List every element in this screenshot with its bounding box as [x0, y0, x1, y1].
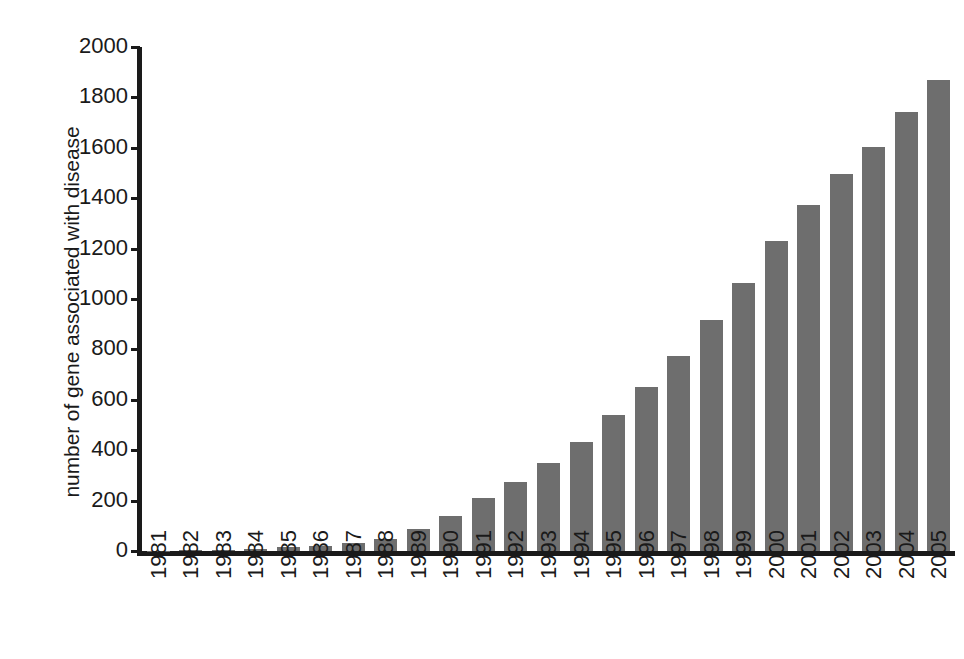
bar-chart: number of gene associated with disease 0… — [0, 0, 964, 659]
x-tick-label: 1993 — [537, 558, 560, 581]
bar — [895, 112, 918, 551]
y-tick-label: 600 — [91, 386, 128, 412]
x-tick-label: 1995 — [602, 558, 625, 581]
x-tick-label: 1998 — [700, 558, 723, 581]
x-tick-label: 1991 — [472, 558, 495, 581]
x-tick-label: 1994 — [570, 558, 593, 581]
y-tick-label: 400 — [91, 436, 128, 462]
y-tick-label: 1000 — [79, 285, 128, 311]
x-tick-label: 1992 — [504, 558, 527, 581]
bar — [797, 205, 820, 551]
bar — [732, 283, 755, 551]
x-tick-label: 2002 — [830, 558, 853, 581]
y-tick-label: 1400 — [79, 184, 128, 210]
bar — [830, 174, 853, 551]
x-tick-label: 1988 — [374, 558, 397, 581]
y-tick-label: 2000 — [79, 33, 128, 59]
x-tick-label: 1997 — [667, 558, 690, 581]
y-tick-label: 1200 — [79, 235, 128, 261]
x-tick-label: 2004 — [895, 558, 918, 581]
x-tick-label: 1985 — [277, 558, 300, 581]
x-tick-label: 2005 — [927, 558, 950, 581]
plot-area — [142, 47, 955, 551]
x-tick-label: 1981 — [147, 558, 170, 581]
bar — [765, 241, 788, 551]
y-tick-label: 200 — [91, 487, 128, 513]
x-tick-label: 2000 — [765, 558, 788, 581]
x-tick-label: 1996 — [635, 558, 658, 581]
y-axis-ticks: 0200400600800100012001400160018002000 — [0, 0, 140, 659]
bar — [635, 387, 658, 551]
y-tick-label: 0 — [116, 537, 128, 563]
x-tick-label: 2003 — [862, 558, 885, 581]
bar — [667, 356, 690, 551]
x-tick-label: 1989 — [407, 558, 430, 581]
bar — [862, 147, 885, 551]
x-tick-label: 1990 — [439, 558, 462, 581]
y-tick-label: 1600 — [79, 134, 128, 160]
y-tick-label: 800 — [91, 335, 128, 361]
y-tick-label: 1800 — [79, 83, 128, 109]
x-tick-label: 1999 — [732, 558, 755, 581]
x-tick-label: 1987 — [342, 558, 365, 581]
x-tick-label: 1982 — [179, 558, 202, 581]
x-axis-ticks: 1981198219831984198519861987198819891990… — [142, 558, 955, 653]
x-tick-label: 1986 — [309, 558, 332, 581]
bar — [927, 80, 950, 551]
x-tick-label: 1984 — [244, 558, 267, 581]
bar — [700, 320, 723, 551]
x-tick-label: 2001 — [797, 558, 820, 581]
x-tick-label: 1983 — [212, 558, 235, 581]
